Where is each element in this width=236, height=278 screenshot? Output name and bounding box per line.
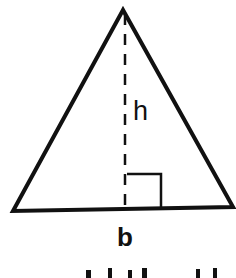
base-label: b	[117, 222, 133, 252]
height-label: h	[133, 96, 148, 126]
triangle-svg: h b	[0, 0, 236, 278]
triangle-diagram: h b	[0, 0, 236, 278]
caption-cutoff-glyphs	[86, 268, 217, 278]
triangle-outline	[13, 10, 233, 211]
right-angle-marker	[127, 174, 161, 207]
